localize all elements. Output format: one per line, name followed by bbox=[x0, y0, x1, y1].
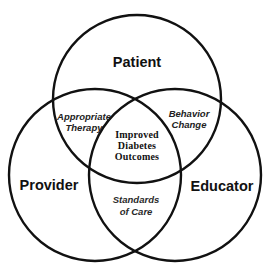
standards-of-care-line1: Standards bbox=[113, 194, 159, 205]
patient-label: Patient bbox=[113, 54, 162, 70]
appropriate-therapy-line2: Therapy bbox=[66, 122, 104, 133]
venn-diagram: Patient Provider Educator Appropriate Th… bbox=[0, 0, 275, 267]
behavior-change-line2: Change bbox=[172, 119, 208, 130]
provider-label: Provider bbox=[20, 177, 79, 193]
venn-svg: Patient Provider Educator Appropriate Th… bbox=[0, 0, 275, 267]
standards-of-care-line2: of Care bbox=[120, 206, 153, 217]
improved-outcomes-line2: Diabetes bbox=[118, 140, 156, 151]
improved-outcomes-line1: Improved bbox=[115, 129, 159, 140]
educator-label: Educator bbox=[191, 178, 254, 194]
behavior-change-line1: Behavior bbox=[169, 108, 211, 119]
improved-outcomes-line3: Outcomes bbox=[115, 151, 159, 162]
appropriate-therapy-line1: Appropriate bbox=[56, 111, 112, 122]
